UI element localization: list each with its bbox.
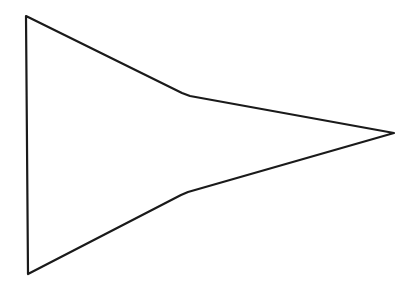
arrow-shape-outline <box>26 16 394 274</box>
diagram-canvas <box>0 0 419 289</box>
